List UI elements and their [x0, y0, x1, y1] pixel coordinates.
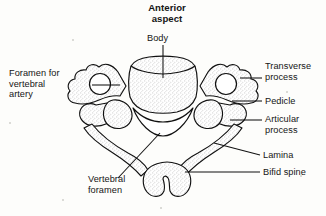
scan-speckle [160, 207, 162, 209]
scan-speckle [72, 39, 74, 41]
scan-speckle [62, 199, 64, 201]
scan-speckle [300, 175, 302, 177]
label-body: Body [147, 33, 168, 44]
label-articular-process: Articular process [265, 114, 299, 135]
pedicle-left [103, 100, 132, 129]
scan-speckle [286, 91, 288, 93]
figure-title: Anterior aspect [128, 3, 206, 25]
transverse-foramen-left [90, 74, 111, 95]
scan-speckle [9, 122, 11, 124]
label-pedicle: Pedicle [265, 96, 295, 107]
label-vertebral-foramen: Vertebral foramen [88, 174, 125, 195]
label-lamina: Lamina [263, 150, 293, 161]
leader-lamina [214, 143, 260, 155]
transverse-foramen-right [216, 74, 237, 95]
label-foramen-for-vertebral-artery: Foramen for vertebral artery [9, 68, 60, 100]
lamina-left [84, 124, 148, 176]
label-transverse-process: Transverse process [265, 61, 311, 82]
bifid-spine [143, 162, 191, 196]
lamina-right [178, 124, 242, 176]
pedicle-right [194, 100, 223, 129]
